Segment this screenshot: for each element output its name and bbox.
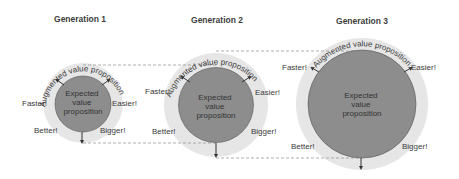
generation-1-title: Generation 1: [54, 14, 106, 24]
generation-3-title: Generation 3: [336, 16, 388, 26]
faster-label-gen1: Faster!: [22, 99, 47, 108]
value-proposition-diagram: Generation 1 Generation 2 Generation 3 A…: [0, 0, 459, 179]
faster-label-gen2: Faster!: [145, 87, 170, 96]
bigger-label-gen3: Bigger!: [402, 142, 427, 151]
better-label-gen1: Better!: [34, 126, 58, 135]
faster-label-gen3: Faster!: [282, 63, 307, 72]
bigger-label-gen1: Bigger!: [100, 126, 125, 135]
easier-label-gen2: Easier!: [255, 88, 280, 97]
easier-label-gen3: Easier!: [411, 63, 436, 72]
better-label-gen3: Better!: [291, 142, 315, 151]
better-label-gen2: Better!: [152, 127, 176, 136]
generation-2-title: Generation 2: [191, 15, 243, 25]
easier-label-gen1: Easier!: [112, 99, 137, 108]
bigger-label-gen2: Bigger!: [251, 127, 276, 136]
